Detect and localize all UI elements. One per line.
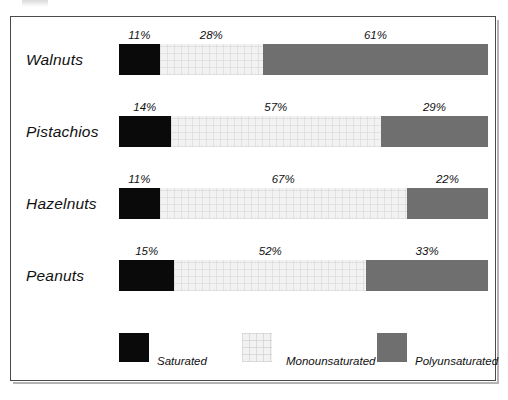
category-label-peanuts: Peanuts	[26, 267, 118, 285]
data-label: 11%	[128, 29, 150, 41]
chart-canvas: 11% 28% 61% Walnuts 14% 57% 29% Pistachi…	[0, 0, 508, 400]
plot-area: 11% 28% 61% Walnuts 14% 57% 29% Pistachi…	[0, 0, 508, 400]
stacked-bar-pistachios	[119, 116, 488, 147]
legend-label-monounsaturated: Monounsaturated	[286, 355, 376, 367]
bar-segment-polyunsaturated	[381, 116, 488, 147]
category-label-pistachios: Pistachios	[26, 123, 118, 141]
data-label: 22%	[436, 173, 459, 185]
bar-segment-monounsaturated	[174, 260, 366, 291]
bar-segment-saturated	[119, 260, 174, 291]
data-label: 33%	[416, 245, 439, 257]
data-label: 11%	[128, 173, 150, 185]
data-label: 29%	[423, 101, 446, 113]
bar-segment-polyunsaturated	[407, 188, 488, 219]
data-label: 57%	[264, 101, 287, 113]
stacked-bar-hazelnuts	[119, 188, 488, 219]
data-label: 15%	[135, 245, 158, 257]
polyunsaturated-swatch	[377, 333, 407, 362]
bar-segment-polyunsaturated	[366, 260, 488, 291]
data-label: 28%	[200, 29, 223, 41]
legend-label-saturated: Saturated	[157, 355, 207, 367]
data-label: 52%	[259, 245, 282, 257]
data-label: 61%	[364, 29, 387, 41]
category-label-walnuts: Walnuts	[26, 51, 118, 69]
category-label-hazelnuts: Hazelnuts	[26, 195, 118, 213]
bar-segment-monounsaturated	[160, 188, 407, 219]
bar-segment-saturated	[119, 188, 160, 219]
data-label: 14%	[133, 101, 156, 113]
bar-segment-saturated	[119, 44, 160, 75]
stacked-bar-peanuts	[119, 260, 488, 291]
data-label: 67%	[272, 173, 295, 185]
monounsaturated-swatch	[242, 333, 272, 362]
bar-segment-saturated	[119, 116, 171, 147]
bar-segment-monounsaturated	[160, 44, 263, 75]
stacked-bar-walnuts	[119, 44, 488, 75]
bar-segment-polyunsaturated	[263, 44, 488, 75]
legend-label-polyunsaturated: Polyunsaturated	[415, 355, 498, 367]
bar-segment-monounsaturated	[171, 116, 381, 147]
saturated-swatch	[119, 333, 149, 362]
